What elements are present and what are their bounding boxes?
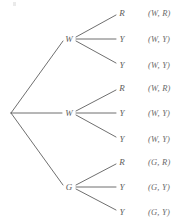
node-leaf-1: R — [119, 9, 125, 18]
outcome-2: (W, Y) — [148, 35, 170, 44]
outcome-3: (W, Y) — [148, 61, 170, 70]
node-level1-w-top: W — [65, 35, 73, 44]
outcome-1: (W, R) — [148, 9, 171, 18]
node-level1-g-bottom: G — [66, 183, 73, 192]
outcome-9: (G, Y) — [148, 208, 170, 217]
branch-g-to-y2 — [76, 189, 116, 210]
node-leaf-4: R — [119, 84, 125, 93]
branch-g-to-r — [76, 164, 116, 185]
branch-w1-to-y2 — [76, 41, 116, 63]
node-leaf-5: Y — [119, 109, 124, 118]
node-leaf-2: Y — [119, 35, 124, 44]
outcome-4: (W, R) — [148, 84, 171, 93]
branch-w2-to-y2 — [76, 115, 116, 137]
node-leaf-6: Y — [119, 135, 124, 144]
branch-w2-to-r — [76, 90, 116, 111]
node-leaf-7: R — [119, 158, 125, 167]
branch-w1-to-r — [76, 15, 116, 37]
node-level1-w-middle: W — [65, 109, 73, 118]
outcome-6: (W, Y) — [148, 135, 170, 144]
outcome-8: (G, Y) — [148, 183, 170, 192]
outcome-5: (W, Y) — [148, 109, 170, 118]
outcome-7: (G, R) — [148, 158, 170, 167]
node-leaf-8: Y — [119, 183, 124, 192]
branch-root-to-w1 — [11, 41, 63, 113]
probability-tree-diagram: W W G R Y Y R Y Y R Y Y (W, R) (W, Y) (W… — [0, 0, 187, 224]
scan-artifact-speck — [13, 2, 16, 6]
node-leaf-3: Y — [119, 61, 124, 70]
node-leaf-9: Y — [119, 208, 124, 217]
branch-root-to-g — [11, 113, 63, 185]
